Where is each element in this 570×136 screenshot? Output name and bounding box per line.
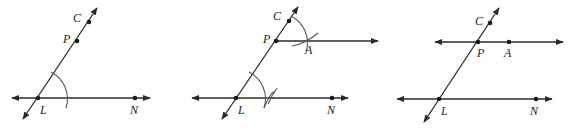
label-a: A xyxy=(304,43,313,57)
label-p: P xyxy=(262,32,271,46)
point-p xyxy=(75,39,80,44)
transversal-lc xyxy=(222,7,298,119)
label-p: P xyxy=(62,32,71,46)
point-l xyxy=(437,97,442,102)
arc-at-l xyxy=(249,72,265,108)
label-l: L xyxy=(237,103,245,117)
point-l xyxy=(234,96,239,101)
label-c: C xyxy=(475,14,484,28)
point-c xyxy=(87,20,92,25)
point-n xyxy=(133,96,138,101)
point-p xyxy=(274,39,279,44)
label-l: L xyxy=(39,103,47,117)
label-l: L xyxy=(440,104,448,118)
transversal-lc xyxy=(424,8,499,122)
point-l xyxy=(36,96,41,101)
label-p: P xyxy=(476,46,485,60)
panel-step-1: C P L N xyxy=(12,8,150,119)
label-c: C xyxy=(273,9,282,23)
point-n xyxy=(534,97,539,102)
label-a: A xyxy=(503,46,512,60)
parallel-construction-diagram: C P L N C P A L N C P A L N xyxy=(0,0,570,136)
point-c xyxy=(287,19,292,24)
label-c: C xyxy=(73,11,82,25)
label-n: N xyxy=(326,103,336,117)
panel-step-2: C P A L N xyxy=(192,7,378,119)
transversal-lc xyxy=(23,8,97,119)
point-c xyxy=(488,21,493,26)
point-p xyxy=(476,40,481,45)
point-n xyxy=(330,96,335,101)
label-n: N xyxy=(129,103,139,117)
arc-at-l xyxy=(51,72,67,108)
label-n: N xyxy=(529,104,539,118)
point-a xyxy=(507,40,512,45)
panel-step-3: C P A L N xyxy=(397,8,563,122)
